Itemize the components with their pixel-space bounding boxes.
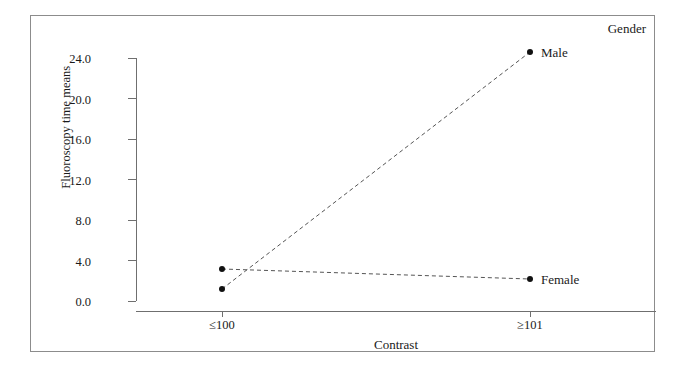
series-line-male: [222, 52, 530, 289]
series-label-female: Female: [541, 273, 579, 286]
series-lines: [31, 16, 656, 353]
chart-page: 24.0 20.0 16.0 12.0 8.0 4.0 0.0 Fluorosc…: [0, 0, 681, 368]
plot-frame: 24.0 20.0 16.0 12.0 8.0 4.0 0.0 Fluorosc…: [30, 15, 655, 352]
data-point-male-le100: [219, 286, 225, 292]
data-point-male-ge101: [527, 49, 533, 55]
data-point-female-le100: [219, 266, 225, 272]
series-line-female: [222, 269, 530, 279]
series-label-male: Male: [541, 46, 568, 59]
data-point-female-ge101: [527, 276, 533, 282]
